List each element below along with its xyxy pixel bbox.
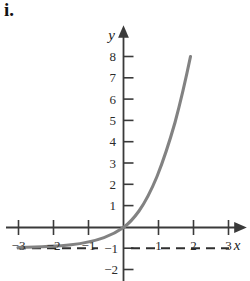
y-tick-label-4: 4 xyxy=(110,134,117,149)
y-tick-label-5: 5 xyxy=(110,113,117,128)
x-axis-label: x xyxy=(233,237,241,253)
figure-container: i. xyxy=(0,0,250,281)
y-tick-label-8: 8 xyxy=(110,49,117,64)
y-axis-ticks xyxy=(124,57,134,270)
y-tick-label-neg2: −2 xyxy=(104,262,118,277)
x-tick-label-1: 1 xyxy=(155,238,162,253)
y-tick-label-neg1: −1 xyxy=(104,241,118,256)
graph-plot: −3 −2 −1 1 2 3 8 7 6 5 4 3 2 1 −1 −2 y x xyxy=(0,0,250,281)
y-tick-label-7: 7 xyxy=(110,70,117,85)
y-axis-label: y xyxy=(106,27,115,43)
y-tick-label-2: 2 xyxy=(110,177,117,192)
y-tick-label-3: 3 xyxy=(110,156,117,171)
y-tick-label-6: 6 xyxy=(110,92,117,107)
exponential-curve xyxy=(18,57,191,248)
x-tick-label-neg3: −3 xyxy=(12,238,26,253)
x-tick-label-neg2: −2 xyxy=(47,238,61,253)
x-tick-label-neg1: −1 xyxy=(82,238,96,253)
x-tick-label-2: 2 xyxy=(190,238,197,253)
y-tick-label-1: 1 xyxy=(110,198,117,213)
x-tick-label-3: 3 xyxy=(225,238,232,253)
